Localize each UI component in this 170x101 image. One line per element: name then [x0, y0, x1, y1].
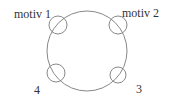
motif-1-circle: [49, 16, 67, 34]
motif-3-label: 3: [136, 82, 142, 96]
motif-2-label: motiv 2: [122, 6, 159, 20]
motif-4-circle: [47, 64, 65, 82]
motif-1-label: motiv 1: [14, 7, 51, 21]
main-circle: [47, 11, 127, 91]
circular-motif-diagram: motiv 1 motiv 2 3 4: [0, 0, 170, 101]
motif-4-label: 4: [34, 83, 40, 97]
motif-3-circle: [110, 67, 126, 83]
